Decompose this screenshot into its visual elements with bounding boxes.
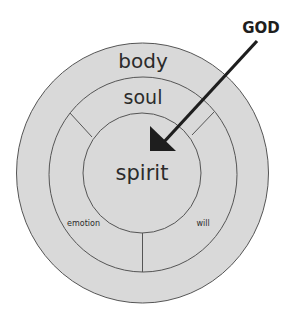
body-soul-spirit-diagram: body soul spirit emotion will GOD	[0, 0, 301, 319]
god-label: GOD	[242, 19, 280, 37]
emotion-label: emotion	[67, 219, 100, 228]
will-label: will	[196, 219, 209, 228]
body-label: body	[118, 49, 168, 73]
spirit-label: spirit	[116, 161, 169, 185]
soul-label: soul	[124, 86, 163, 108]
